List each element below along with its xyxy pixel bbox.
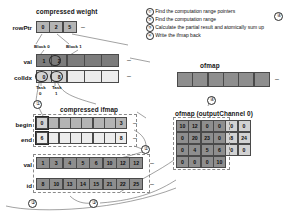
ofmap-trailing-dash: – xyxy=(275,75,279,82)
colidx-highlight-ellipse-1 xyxy=(50,71,63,82)
colidx-cells: 0 8 xyxy=(36,70,119,83)
legend-text-2: Find the computation range xyxy=(155,16,216,22)
rowptr-cells: 0 2 5 xyxy=(36,21,76,33)
legend: ①Find the computation range pointers ②Fi… xyxy=(146,8,284,40)
task-0-index: 0 xyxy=(39,91,41,96)
row-label-val-ifmap: val xyxy=(0,161,32,168)
row-label-begin: begin xyxy=(0,121,32,128)
ofmap-title: ofmap xyxy=(200,62,220,69)
task-1-index: 1 xyxy=(55,91,57,96)
rowptr-trailing-dash: – xyxy=(81,23,85,30)
weight-val-highlight-ellipse xyxy=(49,55,61,66)
weight-val-cell xyxy=(67,54,85,67)
colidx-cell xyxy=(101,70,119,83)
row-label-rowptr: rowPtr xyxy=(0,24,32,31)
rowptr-cell: 2 xyxy=(49,21,63,33)
ofmap-grid-dashed-box xyxy=(173,117,230,170)
row-label-end: end xyxy=(0,136,32,143)
rowptr-cell: 5 xyxy=(63,21,77,33)
compressed-ifmap-title: compressed ifmap xyxy=(60,106,118,113)
ofmap-grid-cell: 0 xyxy=(238,120,251,132)
figure-canvas: compressed weight rowPtr 0 2 5 – Block 0… xyxy=(0,0,286,219)
ofmap-grid-title: ofmap (outputChannel 0) xyxy=(175,110,253,117)
weight-val-cell xyxy=(101,54,119,67)
ofmap-cell xyxy=(223,72,239,87)
colidx-highlight-ellipse-0 xyxy=(35,71,48,82)
legend-text-4: Write the ifmap back xyxy=(155,32,200,38)
legend-item-1: ①Find the computation range pointers xyxy=(146,8,284,16)
colidx-cell xyxy=(67,70,85,83)
block-1-label: Block 1 xyxy=(66,44,82,49)
block-0-label: Block 0 xyxy=(34,44,50,49)
colidx-cell xyxy=(84,70,102,83)
ofmap-cell xyxy=(208,72,224,87)
ifmap-range-dashed-box xyxy=(33,114,137,147)
task-0-label: Task xyxy=(36,85,46,90)
weight-val-cell xyxy=(84,54,102,67)
legend-number-3: ③ xyxy=(146,24,154,32)
legend-item-2: ②Find the computation range xyxy=(146,16,284,24)
weight-val-trailing-dash: – xyxy=(127,56,131,63)
ifmap-id-trailing-dash: – xyxy=(150,180,154,187)
legend-number-4: ④ xyxy=(146,32,154,40)
legend-item-4: ④Write the ifmap back xyxy=(146,32,284,40)
row-label-id: id xyxy=(0,182,32,189)
legend-item-3: ③Calculate the partial result and atomic… xyxy=(146,24,284,32)
compressed-weight-title: compressed weight xyxy=(36,8,97,15)
ofmap-cells xyxy=(177,72,269,87)
task-1-label: Task xyxy=(52,85,62,90)
legend-number-1: ① xyxy=(146,8,154,16)
rowptr-cell: 0 xyxy=(36,21,50,33)
ofmap-cell xyxy=(254,72,270,87)
ofmap-grid-cell: 0 xyxy=(238,144,251,156)
ifmap-val-trailing-dash: – xyxy=(150,159,154,166)
legend-number-2: ② xyxy=(146,16,154,24)
ofmap-cell xyxy=(192,72,208,87)
ofmap-grid-cell: 24 xyxy=(238,132,251,144)
legend-text-3: Calculate the partial result and atomica… xyxy=(155,24,264,30)
row-label-val-weight: val xyxy=(0,58,32,65)
legend-text-1: Find the computation range pointers xyxy=(155,8,235,14)
colidx-trailing-dash: – xyxy=(127,72,131,79)
ofmap-cell xyxy=(238,72,254,87)
row-label-colidx: colIdx xyxy=(0,74,32,81)
ifmap-data-dashed-box xyxy=(33,154,150,193)
ofmap-cell xyxy=(177,72,193,87)
